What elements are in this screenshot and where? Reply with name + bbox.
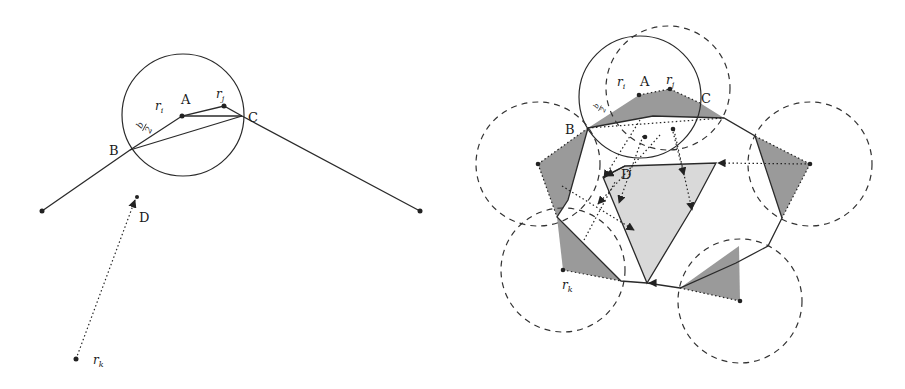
label-ri: ri <box>155 99 164 115</box>
shaded-region-left <box>538 128 588 217</box>
point-d <box>135 195 139 199</box>
svg-text:2: 2 <box>599 106 609 115</box>
central-region <box>603 163 716 283</box>
label-d-right: D <box>621 167 631 182</box>
left-figure: A B C D ri rj rk b 2 <box>40 54 423 369</box>
left-path <box>42 106 420 211</box>
label-rk-right: rk <box>562 278 573 294</box>
label-c: C <box>248 110 258 125</box>
label-a-right: A <box>639 74 650 89</box>
point-left <box>536 162 541 167</box>
label-d: D <box>139 210 149 225</box>
label-b-half: b 2 <box>134 119 155 135</box>
label-rk: rk <box>93 353 104 369</box>
point-rj <box>222 104 227 109</box>
label-b: B <box>109 143 119 158</box>
diagram-canvas: A B C D ri rj rk b 2 <box>0 0 905 389</box>
point-rk-right <box>561 268 566 273</box>
svg-text:2: 2 <box>143 125 155 136</box>
label-ri-right: ri <box>617 75 626 91</box>
label-a: A <box>180 92 191 107</box>
point-bottom-right <box>738 299 743 304</box>
point-a <box>180 114 185 119</box>
label-b-half-right: b 2 <box>591 102 608 115</box>
label-c-right: C <box>701 91 711 106</box>
label-rj-right: rj <box>666 73 675 89</box>
right-figure: A B C D ri rj rk b 2 <box>476 26 872 363</box>
point-center-1 <box>643 135 648 140</box>
point-end <box>418 209 423 214</box>
label-rj: rj <box>216 87 225 103</box>
shaded-region-bottom-right <box>680 246 740 301</box>
dotted-arrow-rk-d <box>76 200 135 359</box>
point-start <box>40 209 45 214</box>
point-a-right <box>637 93 642 98</box>
shaded-region-right <box>755 136 810 218</box>
label-b-right: B <box>565 122 575 137</box>
point-right <box>808 162 813 167</box>
point-center-2 <box>671 127 676 132</box>
